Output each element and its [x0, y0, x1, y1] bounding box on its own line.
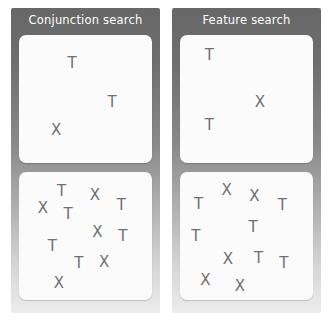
stimulus-letter-t: T: [194, 197, 203, 212]
stimulus-letter-t: T: [74, 255, 83, 270]
stimulus-letter-t: T: [278, 198, 287, 213]
panel-title-feature: Feature search: [172, 13, 321, 27]
stimulus-letter-x: X: [200, 272, 210, 287]
stimulus-letter-t: T: [205, 48, 214, 63]
stimulus-display-conjunction-large-set: XTTXTXTTTXX: [19, 172, 152, 300]
stimulus-letter-x: X: [249, 189, 259, 204]
stimulus-letter-x: X: [92, 225, 102, 240]
panel-feature-search: Feature search TXT XXTTTTXTTXX: [172, 8, 321, 313]
stimulus-letter-x: X: [255, 94, 265, 109]
stimulus-letter-x: X: [51, 122, 61, 137]
stimulus-letter-x: X: [90, 188, 100, 203]
stimulus-letter-x: X: [99, 254, 109, 269]
stimulus-letter-t: T: [57, 184, 66, 199]
stimulus-letter-t: T: [205, 117, 214, 132]
stimulus-letter-t: T: [191, 229, 200, 244]
stimulus-letter-t: T: [279, 255, 288, 270]
stimulus-letter-t: T: [254, 250, 263, 265]
stimulus-letter-x: X: [38, 200, 48, 215]
stimulus-letter-t: T: [118, 229, 127, 244]
stimulus-display-feature-small-set: TXT: [180, 35, 313, 163]
stimulus-letter-t: T: [68, 56, 77, 71]
stimulus-letter-t: T: [48, 239, 57, 254]
panel-conjunction-search: Conjunction search TTX XTTXTXTTTXX: [11, 8, 160, 313]
stimulus-letter-x: X: [221, 182, 231, 197]
stimulus-letter-t: T: [108, 94, 117, 109]
stimulus-letter-x: X: [54, 276, 64, 291]
stimulus-display-feature-large-set: XXTTTTXTTXX: [180, 172, 313, 300]
panel-title-conjunction: Conjunction search: [11, 13, 160, 27]
search-task-figure: Conjunction search TTX XTTXTXTTTXX Featu…: [0, 0, 328, 321]
stimulus-letter-x: X: [223, 252, 233, 267]
stimulus-letter-t: T: [249, 220, 258, 235]
stimulus-letter-x: X: [235, 278, 245, 293]
stimulus-display-conjunction-small-set: TTX: [19, 35, 152, 163]
stimulus-letter-t: T: [117, 198, 126, 213]
stimulus-letter-t: T: [64, 207, 73, 222]
